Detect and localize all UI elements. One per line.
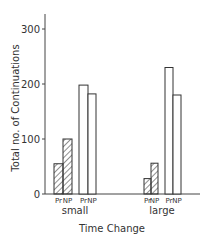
x-axis-title: Time Change: [78, 223, 145, 234]
bar-label: Pr: [80, 197, 87, 205]
bar-small-pr-open: [79, 85, 88, 194]
group-labels: smalllarge: [62, 205, 175, 216]
bar-large-pr-hatched: [144, 179, 151, 194]
bar-chart: 0100200300 PrNPPrNPPrNPPrNP smalllarge T…: [0, 0, 213, 246]
bar-label: Pr: [55, 197, 62, 205]
bar-label: NP: [87, 197, 96, 205]
bar-label: NP: [150, 197, 159, 205]
bar-small-np-open: [88, 94, 96, 194]
group-label-small: small: [62, 205, 89, 216]
bar-large-np-open: [173, 95, 181, 194]
bar-label: NP: [63, 197, 72, 205]
bar-small-np-hatched: [63, 139, 72, 194]
y-tick-label: 300: [21, 24, 40, 35]
bar-labels: PrNPPrNPPrNPPrNP: [55, 197, 182, 205]
bar-label: NP: [172, 197, 181, 205]
bar-large-np-hatched: [151, 163, 158, 194]
y-tick-label: 100: [21, 134, 40, 145]
y-tick-label: 200: [21, 79, 40, 90]
y-tick-label: 0: [34, 189, 40, 200]
bars: [54, 68, 181, 195]
y-axis-title: Total no. of Continuations: [10, 44, 21, 172]
y-ticks: 0100200300: [21, 24, 45, 200]
group-label-large: large: [149, 205, 174, 216]
bar-large-pr-open: [165, 68, 173, 195]
bar-small-pr-hatched: [54, 164, 63, 194]
